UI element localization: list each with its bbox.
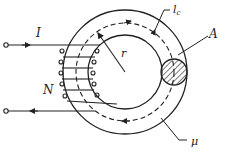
terminal-bottom: [4, 109, 8, 113]
permeability-label: μ: [191, 135, 198, 148]
turns-label: N: [42, 83, 54, 97]
cross-section-area: [161, 59, 187, 85]
current-label: I: [35, 26, 41, 40]
radius-label: r: [121, 47, 127, 60]
area-leader: [178, 36, 208, 55]
toroid-diagram: I N r lc A μ: [0, 0, 225, 159]
winding: [6, 45, 117, 111]
mean-path-label: lc: [173, 3, 181, 17]
mu-leader: [161, 118, 187, 140]
terminal-top: [4, 43, 8, 47]
area-label: A: [208, 27, 218, 41]
